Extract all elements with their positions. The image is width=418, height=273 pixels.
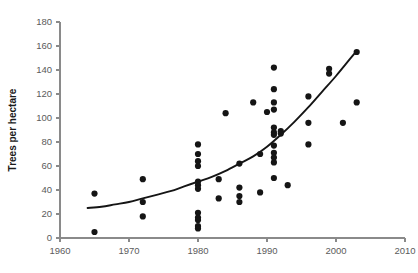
y-axis: 020406080100120140160180 Trees per hecta… — [7, 16, 60, 243]
y-axis-title: Trees per hectare — [7, 88, 18, 171]
data-point — [216, 176, 222, 182]
data-point — [195, 141, 201, 147]
y-tick-label: 120 — [36, 88, 52, 99]
data-point — [236, 199, 242, 205]
data-point — [236, 193, 242, 199]
y-tick-label: 180 — [36, 16, 52, 27]
data-point — [305, 93, 311, 99]
data-point — [271, 175, 277, 181]
scatter-plot: 020406080100120140160180 Trees per hecta… — [0, 0, 418, 273]
trend-curve-layer — [88, 51, 357, 208]
data-point — [271, 159, 277, 165]
x-axis: 196019701980199020002010 — [49, 238, 415, 256]
y-tick-label: 60 — [41, 160, 52, 171]
data-points-layer — [91, 49, 359, 235]
y-tick-label: 40 — [41, 184, 52, 195]
trend-curve — [88, 51, 357, 208]
data-point — [271, 107, 277, 113]
data-point — [305, 141, 311, 147]
x-tick-label: 1980 — [187, 245, 208, 256]
data-point — [340, 120, 346, 126]
data-point — [216, 195, 222, 201]
y-axis-ticks: 020406080100120140160180 — [36, 16, 60, 243]
data-point — [354, 99, 360, 105]
data-point — [326, 71, 332, 77]
x-axis-ticks: 196019701980199020002010 — [49, 238, 415, 256]
x-tick-label: 2010 — [394, 245, 415, 256]
data-point — [195, 225, 201, 231]
x-tick-label: 2000 — [325, 245, 346, 256]
data-point — [271, 99, 277, 105]
data-point — [195, 163, 201, 169]
data-point — [271, 86, 277, 92]
data-point — [250, 99, 256, 105]
data-point — [236, 185, 242, 191]
data-point — [271, 132, 277, 138]
data-point — [271, 65, 277, 71]
x-tick-label: 1970 — [118, 245, 139, 256]
data-point — [140, 213, 146, 219]
y-tick-label: 140 — [36, 64, 52, 75]
data-point — [285, 182, 291, 188]
data-point — [195, 186, 201, 192]
data-point — [223, 110, 229, 116]
data-point — [91, 191, 97, 197]
data-point — [195, 217, 201, 223]
y-tick-label: 100 — [36, 112, 52, 123]
x-tick-label: 1990 — [256, 245, 277, 256]
data-point — [140, 176, 146, 182]
data-point — [264, 109, 270, 115]
data-point — [195, 151, 201, 157]
y-tick-label: 80 — [41, 136, 52, 147]
data-point — [305, 120, 311, 126]
data-point — [91, 229, 97, 235]
x-tick-label: 1960 — [49, 245, 70, 256]
y-tick-label: 160 — [36, 40, 52, 51]
y-tick-label: 0 — [47, 232, 52, 243]
y-tick-label: 20 — [41, 208, 52, 219]
chart-container: 020406080100120140160180 Trees per hecta… — [0, 0, 418, 273]
data-point — [257, 189, 263, 195]
